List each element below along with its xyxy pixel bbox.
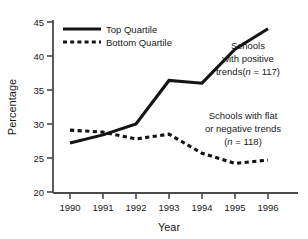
y-tick-label-25: 25 [33,153,44,164]
x-tick-label-1990: 1990 [59,202,80,213]
legend: Top Quartile Bottom Quartile [63,24,172,48]
annotation-flat-line2: or negative trends [205,123,281,134]
annotation-positive-line3-pre: trends( [216,66,246,77]
y-axis-title: Percentage [6,79,18,135]
line-chart: 45 40 35 30 25 20 1990 1991 1992 1993 19… [0,0,308,239]
annotation-flat-negative-trends: Schools with flat or negative trends (n … [205,110,281,147]
x-tick-label-1996: 1996 [257,202,278,213]
y-tick-label-20: 20 [33,187,44,198]
chart-figure: 45 40 35 30 25 20 1990 1991 1992 1993 19… [0,0,308,239]
annotation-positive-line1: Schools [231,40,265,51]
annotation-positive-trends: Schools with positive trends(n = 117) [216,40,280,77]
legend-label-bottom-quartile: Bottom Quartile [106,37,172,48]
x-axis-title: Year [158,221,181,233]
y-tick-label-45: 45 [33,17,44,28]
x-tick-label-1994: 1994 [191,202,212,213]
y-tick-label-35: 35 [33,85,44,96]
x-tick-label-1993: 1993 [158,202,179,213]
x-tick-label-1995: 1995 [224,202,245,213]
annotation-positive-line3-post: = 117) [251,66,280,77]
annotation-flat-line3-post: = 118) [233,136,262,147]
x-tick-label-1992: 1992 [125,202,146,213]
y-tick-label-30: 30 [33,119,44,130]
legend-label-top-quartile: Top Quartile [106,24,157,35]
annotation-positive-line3: trends(n = 117) [216,66,280,77]
annotation-positive-line2: with positive [221,53,274,64]
x-tick-label-1991: 1991 [92,202,113,213]
annotation-flat-line3: (n = 118) [224,136,262,147]
annotation-flat-line1: Schools with flat [209,110,278,121]
y-tick-label-40: 40 [33,51,44,62]
